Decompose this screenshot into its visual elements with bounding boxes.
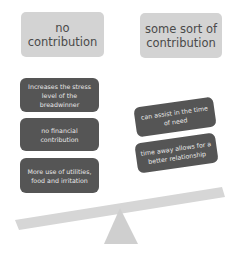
- seesaw: [0, 0, 233, 254]
